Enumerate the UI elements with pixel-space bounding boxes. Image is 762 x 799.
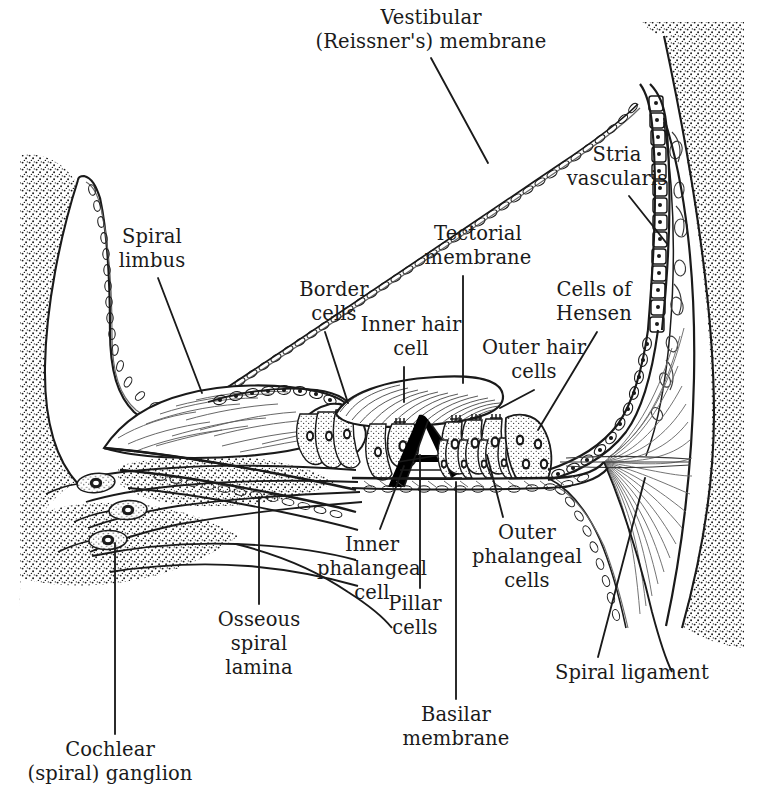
leader-line-outer-hair-cells	[500, 390, 534, 408]
label-basilar-membrane: Basilarmembrane	[403, 703, 510, 751]
stria-vascularis-body	[640, 84, 688, 456]
label-line: Inner hair	[361, 313, 462, 337]
label-spiral-limbus: Spirallimbus	[119, 225, 186, 273]
leader-line-vestibular-membrane	[431, 58, 488, 163]
label-line: Spiral ligament	[555, 661, 709, 685]
label-line: (spiral) ganglion	[28, 762, 193, 786]
temporal-bone-right	[640, 22, 744, 648]
label-line: Cells of	[556, 278, 632, 302]
label-line: cell	[361, 337, 462, 361]
leader-line-stria-vascularis	[629, 196, 668, 245]
label-line: Outer hair	[482, 336, 586, 360]
label-line: (Reissner's) membrane	[316, 30, 547, 54]
label-line: Basilar	[403, 703, 510, 727]
label-line: Outer	[472, 521, 582, 545]
cochlea-cross-section-figure: Vestibular(Reissner's) membraneStriavasc…	[0, 0, 762, 799]
label-line: Vestibular	[316, 6, 547, 30]
label-spiral-ligament: Spiral ligament	[555, 661, 709, 685]
label-line: Hensen	[556, 302, 632, 326]
label-line: Cochlear	[28, 738, 193, 762]
label-line: cells	[482, 360, 586, 384]
label-cochlear-spiral-ganglion: Cochlear(spiral) ganglion	[28, 738, 193, 786]
label-line: Stria	[567, 143, 668, 167]
label-line: phalangeal	[472, 545, 582, 569]
label-line: cells	[388, 616, 441, 640]
label-outer-hair-cells: Outer haircells	[482, 336, 586, 384]
label-line: Border	[299, 278, 368, 302]
label-line: cells	[472, 569, 582, 593]
label-line: vascularis	[567, 167, 668, 191]
label-line: limbus	[119, 249, 186, 273]
label-pillar-cells: Pillarcells	[388, 592, 441, 640]
label-osseous-spiral-lamina: Osseousspirallamina	[218, 608, 301, 680]
leader-line-spiral-limbus	[158, 278, 202, 393]
label-outer-phalangeal-cells: Outerphalangealcells	[472, 521, 582, 593]
label-border-cells: Bordercells	[299, 278, 368, 326]
cells-of-hensen-body	[505, 415, 551, 478]
label-line: Tectorial	[425, 222, 532, 246]
label-line: membrane	[425, 246, 532, 270]
label-line: lamina	[218, 656, 301, 680]
label-stria-vascularis: Striavascularis	[567, 143, 668, 191]
label-line: phalangeal	[317, 557, 427, 581]
label-line: Pillar	[388, 592, 441, 616]
label-line: Inner	[317, 533, 427, 557]
label-line: cells	[299, 302, 368, 326]
label-line: Spiral	[119, 225, 186, 249]
label-vestibular-membrane: Vestibular(Reissner's) membrane	[316, 6, 547, 54]
label-line: Osseous	[218, 608, 301, 632]
ligament-fibers	[604, 328, 692, 614]
label-line: spiral	[218, 632, 301, 656]
vestibular-wall-left	[78, 176, 208, 428]
label-tectorial-membrane: Tectorialmembrane	[425, 222, 532, 270]
label-inner-hair-cell: Inner haircell	[361, 313, 462, 361]
label-line: membrane	[403, 727, 510, 751]
label-cells-of-hensen: Cells ofHensen	[556, 278, 632, 326]
